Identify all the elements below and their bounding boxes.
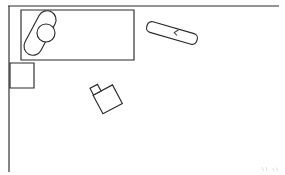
circle-object	[37, 24, 55, 42]
scene-canvas: Room Layout Line Sketch black-and-white …	[0, 0, 285, 175]
small-square	[10, 63, 34, 88]
line-drawing-svg	[0, 0, 285, 175]
